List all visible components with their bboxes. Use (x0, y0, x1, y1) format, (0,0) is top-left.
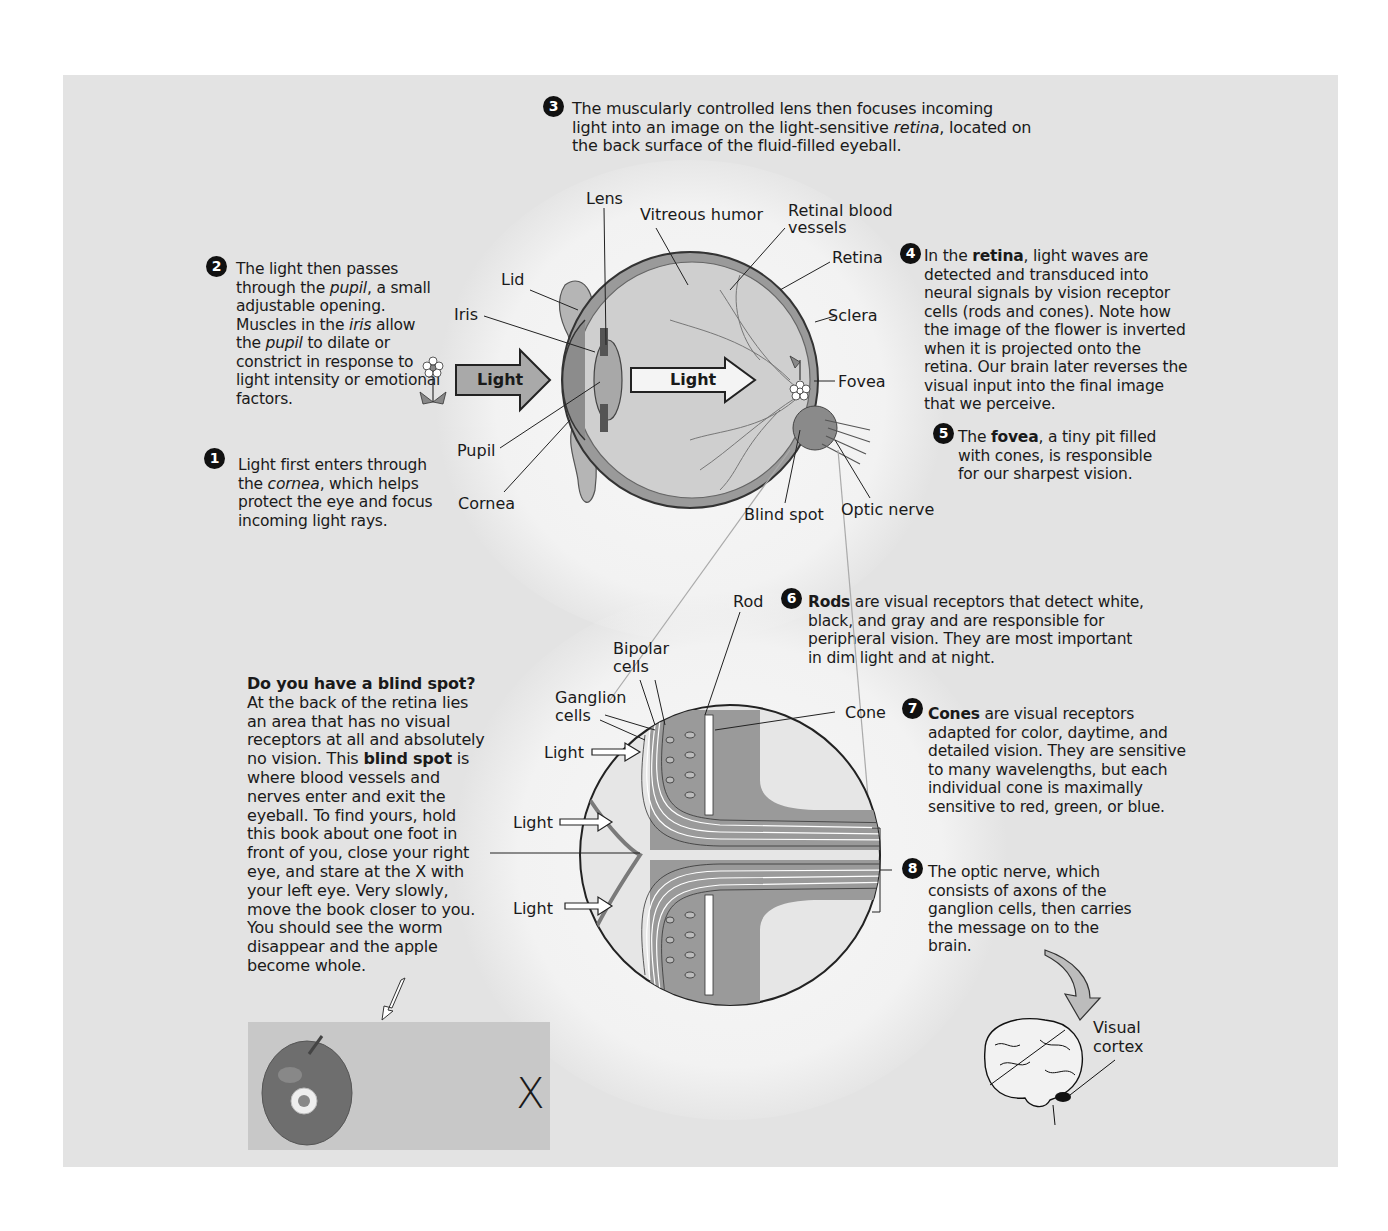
label-visual-cortex: Visualcortex (1093, 1018, 1143, 1056)
brain-icon (0, 0, 1388, 1231)
